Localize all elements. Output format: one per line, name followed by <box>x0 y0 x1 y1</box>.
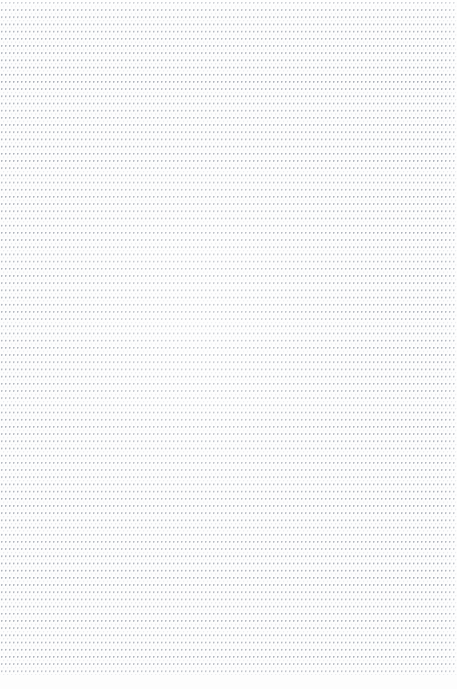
notebook-page <box>0 0 457 689</box>
bottom-blank-margin <box>0 675 457 689</box>
dot-grid-ghost-pattern <box>0 0 457 675</box>
